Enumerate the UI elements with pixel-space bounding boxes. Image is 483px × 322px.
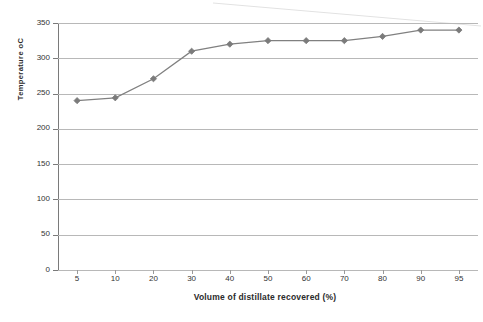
x-tick-label: 5 [62, 274, 92, 283]
y-tick-label-text: 150 [22, 160, 50, 168]
y-tick-label: 300 [20, 54, 50, 63]
y-tick-label: 150 [20, 160, 50, 169]
y-tick-label: 350 [20, 19, 50, 28]
data-point-marker [112, 95, 118, 101]
plot-area [58, 23, 478, 270]
y-tick-label: 250 [20, 89, 50, 98]
y-tick-label: 0 [20, 266, 50, 275]
data-point-marker [265, 38, 271, 44]
y-tick-label-text: 350 [22, 19, 50, 27]
y-tick-label-text: 300 [22, 54, 50, 62]
x-axis-title: Volume of distillate recovered (%) [50, 292, 480, 302]
y-tick-label: 100 [20, 195, 50, 204]
y-tick-label: 50 [20, 230, 50, 239]
data-point-marker [418, 27, 424, 33]
line-chart: Temperature oC 050100150200250300350 510… [0, 0, 483, 322]
x-tick-label: 10 [100, 274, 130, 283]
y-tick-label: 200 [20, 124, 50, 133]
series-line [58, 23, 478, 271]
x-tick-label: 30 [177, 274, 207, 283]
data-point-marker [303, 38, 309, 44]
data-point-marker [379, 33, 385, 39]
x-tick-label: 40 [215, 274, 245, 283]
y-tick-label-text: 200 [22, 124, 50, 132]
y-tick-label-text: 0 [22, 266, 50, 274]
x-tick-label: 80 [368, 274, 398, 283]
data-point-marker [456, 27, 462, 33]
x-tick-label: 90 [406, 274, 436, 283]
x-tick-label: 50 [253, 274, 283, 283]
y-axis-title: Temperature oC [16, 14, 30, 124]
x-tick-label: 60 [291, 274, 321, 283]
chart-screenshot: Temperature oC 050100150200250300350 510… [0, 0, 483, 322]
x-tick-label: 95 [444, 274, 474, 283]
data-point-marker [341, 38, 347, 44]
y-tick-label-text: 100 [22, 195, 50, 203]
data-point-marker [74, 98, 80, 104]
data-point-marker [227, 41, 233, 47]
x-tick-label: 20 [138, 274, 168, 283]
y-tick-label-text: 50 [22, 230, 50, 238]
x-tick-label: 70 [329, 274, 359, 283]
y-tick-label-text: 250 [22, 89, 50, 97]
